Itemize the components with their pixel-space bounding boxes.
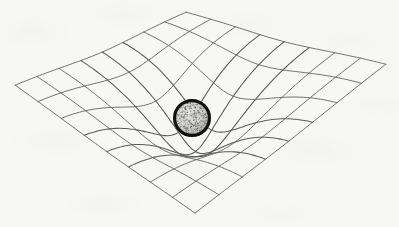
sphere-speckle (181, 117, 182, 118)
sphere-speckle (198, 110, 199, 111)
sphere-speckle (205, 119, 206, 120)
sphere-speckle (195, 128, 196, 129)
sphere-speckle (178, 121, 179, 122)
sphere-speckle (187, 122, 188, 123)
sphere-speckle (205, 122, 206, 123)
sphere-speckle (184, 111, 185, 112)
sphere-speckle (192, 105, 193, 106)
sphere-speckle (196, 109, 197, 110)
sphere-speckle (199, 109, 200, 110)
sphere-speckle (183, 105, 184, 106)
sphere-speckle (187, 124, 188, 125)
sphere-speckle (194, 113, 195, 114)
sphere-speckle (181, 124, 182, 125)
sphere-speckle (199, 122, 200, 123)
sphere-speckle (181, 112, 182, 113)
sphere-speckle (177, 113, 178, 114)
sphere-speckle (193, 129, 194, 130)
sphere-speckle (205, 123, 206, 124)
sphere-speckle (195, 123, 196, 124)
sphere-speckle (205, 119, 206, 120)
sphere-speckle (187, 128, 188, 129)
sphere-speckle (198, 112, 199, 113)
sphere-speckle (192, 104, 193, 105)
grid-line (84, 35, 260, 136)
sphere-speckle (182, 107, 183, 108)
sphere-speckle (182, 115, 183, 116)
sphere-speckle (201, 109, 202, 110)
sphere-speckle (202, 116, 203, 117)
sphere-speckle (191, 128, 192, 129)
sphere-speckle (186, 116, 187, 117)
sphere-speckle (178, 114, 179, 115)
sphere-speckle (200, 107, 201, 108)
sphere-speckle (194, 124, 195, 125)
sphere-speckle (192, 131, 193, 132)
sphere-speckle (192, 117, 193, 118)
sphere-speckle (183, 111, 184, 112)
sphere-speckle (197, 130, 198, 131)
sphere-speckle (182, 110, 183, 111)
sphere-speckle (192, 116, 193, 117)
sphere-speckle (206, 117, 207, 118)
sphere-speckle (191, 106, 192, 107)
sphere-speckle (202, 114, 203, 115)
sphere-speckle (197, 110, 198, 111)
sphere-speckle (201, 127, 202, 128)
sphere-speckle (193, 110, 194, 111)
sphere-speckle (190, 119, 191, 120)
grid-line (81, 61, 266, 160)
sphere-speckle (188, 130, 189, 131)
sphere-speckle (180, 112, 181, 113)
sphere-speckle (201, 130, 202, 131)
sphere-speckle (203, 120, 204, 121)
grid-line (195, 64, 386, 213)
sphere-speckle (179, 118, 180, 119)
sphere-speckle (191, 126, 192, 127)
sphere-speckle (199, 130, 200, 131)
sphere-speckle (188, 121, 189, 122)
sphere-speckle (192, 104, 193, 105)
sphere-speckle (194, 125, 195, 126)
sphere-speckle (194, 129, 195, 130)
sphere-speckle (184, 120, 185, 121)
sphere-speckle (178, 115, 179, 116)
sphere-speckle (180, 127, 181, 128)
sphere-speckle (205, 113, 206, 114)
sphere-speckle (196, 125, 197, 126)
grid-line (186, 12, 386, 64)
sphere-speckle (198, 125, 199, 126)
sphere-speckle (190, 110, 191, 111)
sphere-speckle (184, 115, 185, 116)
sphere-speckle (206, 122, 207, 123)
massive-sphere (173, 99, 211, 137)
sphere-speckle (185, 113, 186, 114)
sphere-speckle (196, 113, 197, 114)
sphere-speckle (183, 126, 184, 127)
sphere-speckle (180, 107, 181, 108)
sphere-speckle (193, 117, 194, 118)
sphere-speckle (177, 114, 178, 115)
sphere-speckle (185, 106, 186, 107)
spacetime-curvature-figure: A two-dimensional rectangular grid rende… (0, 0, 399, 227)
sphere-speckle (177, 120, 178, 121)
sphere-speckle (202, 119, 203, 120)
sphere-speckle (205, 117, 206, 118)
sphere-speckle (193, 119, 194, 120)
sphere-speckle (189, 107, 190, 108)
sphere-speckle (195, 117, 196, 118)
sphere-speckle (203, 125, 204, 126)
sphere-speckle (182, 108, 183, 109)
sphere-speckle (187, 105, 188, 106)
sphere-speckle (200, 128, 201, 129)
sphere-speckle (200, 120, 201, 121)
sphere-speckle (180, 120, 181, 121)
sphere-speckle (182, 112, 183, 113)
sphere-speckle (184, 116, 185, 117)
sphere-speckle (203, 113, 204, 114)
sphere-speckle (191, 132, 192, 133)
sphere-speckle (193, 132, 194, 133)
sphere-speckle (190, 127, 191, 128)
sphere-speckle (190, 112, 191, 113)
sphere-speckle (184, 128, 185, 129)
